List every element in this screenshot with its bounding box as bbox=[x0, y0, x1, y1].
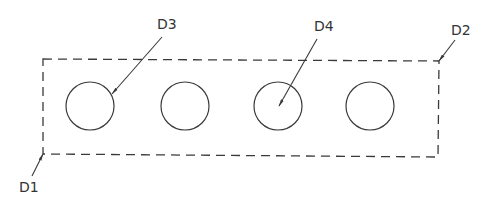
callout-label-d1: D1 bbox=[19, 179, 39, 195]
circles-group bbox=[66, 82, 394, 130]
leader-d3 bbox=[112, 37, 162, 94]
dashed-boundary bbox=[43, 59, 439, 157]
circle-4 bbox=[346, 82, 394, 130]
leader-d1 bbox=[32, 154, 43, 176]
circle-1 bbox=[66, 82, 114, 130]
diagram-canvas: D1 D2 D3 D4 bbox=[0, 0, 486, 208]
leader-d4 bbox=[279, 39, 317, 106]
callout-label-d4: D4 bbox=[314, 18, 334, 34]
leader-d2 bbox=[439, 40, 455, 61]
circle-2 bbox=[161, 82, 209, 130]
callout-label-d2: D2 bbox=[451, 22, 471, 38]
circle-3 bbox=[254, 82, 302, 130]
callouts-group: D1 D2 D3 D4 bbox=[19, 16, 471, 195]
callout-label-d3: D3 bbox=[157, 16, 177, 32]
